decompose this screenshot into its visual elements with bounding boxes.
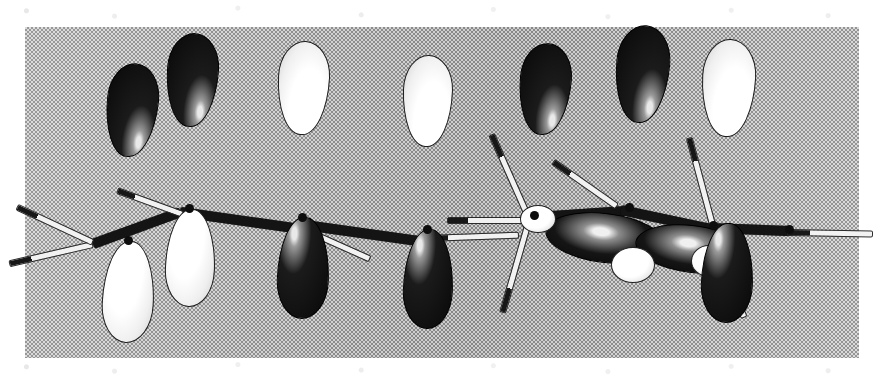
bond-r-c1-h-b — [499, 220, 532, 314]
atom-r-c2 — [625, 203, 634, 212]
bond-r-c1-h-c — [447, 217, 525, 224]
bond-r-c2-h — [551, 159, 619, 209]
atom-r-c3 — [709, 221, 718, 230]
atom-r-c1 — [530, 211, 539, 220]
bond-r-c4-h — [787, 229, 873, 237]
lobe-r-c1-top-dark — [517, 43, 575, 137]
figure-root — [0, 0, 881, 380]
lobe-r-c3-bottom-dark — [700, 222, 753, 322]
halftone-image-plate — [25, 27, 859, 358]
orbital-scene — [25, 27, 859, 358]
atom-r-c4 — [785, 225, 794, 234]
right-model-butadiene — [25, 27, 859, 358]
scan-artifact-top — [0, 0, 881, 27]
lobe-r-endon-small-light-b — [611, 247, 655, 283]
lobe-r-c3-top-light — [701, 40, 758, 139]
bond-r-c3-h-b — [686, 137, 717, 228]
figure-caption — [25, 360, 859, 378]
lobe-r-c2-top-dark — [613, 25, 673, 125]
bond-r-c1-h-a — [488, 133, 532, 220]
lobe-r-endon-small-light-a — [520, 205, 556, 233]
